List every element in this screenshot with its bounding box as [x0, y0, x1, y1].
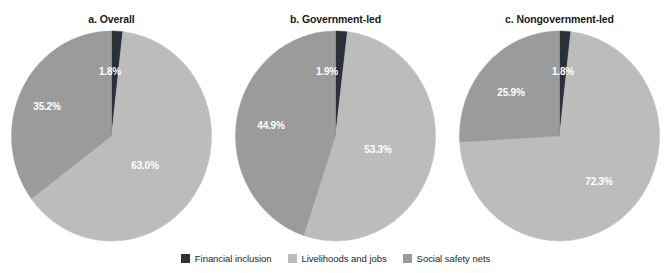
legend-item-financial-inclusion: Financial inclusion: [181, 253, 272, 264]
pie-slices-government-led: [236, 31, 436, 241]
legend-swatch-icon-social-safety-nets: [403, 254, 412, 263]
panel-title-overall: a. Overall: [88, 12, 134, 26]
pie-slice-label: 35.2%: [33, 101, 61, 112]
pie-svg-government-led: 1.9%53.3%44.9%: [233, 30, 438, 242]
pie-slice-label: 63.0%: [131, 160, 159, 171]
legend-label-social-safety-nets: Social safety nets: [417, 253, 491, 264]
pie-chart-nongovernment-led: 1.8%72.3%25.9%: [457, 30, 662, 242]
panel-title-government-led: b. Government-led: [290, 12, 381, 26]
pie-panels-row: a. Overall 1.8%63.0%35.2% b. Government-…: [0, 0, 671, 243]
panel-government-led: b. Government-led 1.9%53.3%44.9%: [224, 0, 447, 243]
chart-legend: Financial inclusion Livelihoods and jobs…: [0, 246, 671, 270]
pie-slice-label: 25.9%: [497, 87, 525, 98]
pie-chart-government-led: 1.9%53.3%44.9%: [233, 30, 438, 242]
legend-swatch-icon-livelihoods-and-jobs: [288, 254, 297, 263]
pie-chart-overall: 1.8%63.0%35.2%: [9, 30, 214, 242]
pie-slices-nongovernment-led: [460, 31, 660, 241]
legend-item-livelihoods-and-jobs: Livelihoods and jobs: [288, 253, 387, 264]
pie-slice-label: 44.9%: [257, 120, 285, 131]
legend-item-social-safety-nets: Social safety nets: [403, 253, 491, 264]
pie-slices-overall: [11, 31, 211, 241]
pie-slice-label: 72.3%: [585, 176, 613, 187]
pie-svg-overall: 1.8%63.0%35.2%: [9, 30, 214, 242]
panel-overall: a. Overall 1.8%63.0%35.2%: [0, 0, 223, 243]
pie-slice-label: 53.3%: [364, 144, 392, 155]
legend-label-financial-inclusion: Financial inclusion: [195, 253, 272, 264]
pie-slice-label: 1.8%: [552, 66, 574, 77]
panel-nongovernment-led: c. Nongovernment-led 1.8%72.3%25.9%: [448, 0, 671, 243]
pie-slice-label: 1.8%: [99, 66, 121, 77]
pie-slice-label: 1.9%: [316, 66, 338, 77]
panel-title-nongovernment-led: c. Nongovernment-led: [505, 12, 614, 26]
pie-chart-figure: a. Overall 1.8%63.0%35.2% b. Government-…: [0, 0, 671, 273]
legend-swatch-icon-financial-inclusion: [181, 254, 190, 263]
legend-label-livelihoods-and-jobs: Livelihoods and jobs: [302, 253, 387, 264]
pie-svg-nongovernment-led: 1.8%72.3%25.9%: [457, 30, 662, 242]
